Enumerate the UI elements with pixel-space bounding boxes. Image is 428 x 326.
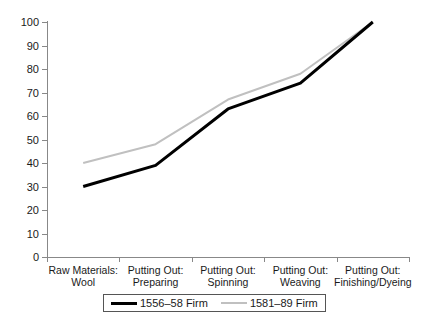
- legend-swatch-icon-series-1: [221, 302, 247, 304]
- x-axis-label-0: Raw Materials:Wool: [43, 264, 123, 288]
- y-tick-mark: [42, 187, 47, 188]
- chart-legend: 1556–58 Firm 1581–89 Firm: [103, 294, 326, 312]
- x-axis-label-line1: Putting Out:: [345, 264, 400, 276]
- x-tick-mark: [192, 257, 193, 262]
- y-tick-mark: [42, 116, 47, 117]
- y-tick-label-80: 80: [27, 64, 39, 75]
- x-tick-mark: [264, 257, 265, 262]
- y-tick-label-40: 40: [27, 158, 39, 169]
- y-tick-label-50: 50: [27, 135, 39, 146]
- y-axis-line: [47, 21, 48, 258]
- x-tick-mark: [119, 257, 120, 262]
- x-axis-label-line2: Wool: [43, 276, 123, 288]
- x-axis-label-4: Putting Out:Finishing/Dyeing: [333, 264, 413, 288]
- y-tick-label-70: 70: [27, 88, 39, 99]
- y-tick-mark: [42, 163, 47, 164]
- series-line-0: [83, 22, 373, 187]
- y-tick-mark: [42, 46, 47, 47]
- legend-item-series-1: 1581–89 Firm: [221, 298, 318, 309]
- x-axis-label-line1: Putting Out:: [128, 264, 183, 276]
- x-axis-label-1: Putting Out:Preparing: [115, 264, 195, 288]
- y-tick-label-100: 100: [21, 17, 39, 28]
- y-tick-mark: [42, 93, 47, 94]
- y-tick-mark: [42, 22, 47, 23]
- x-axis-label-line2: Finishing/Dyeing: [333, 276, 413, 288]
- x-axis-label-line1: Putting Out:: [200, 264, 255, 276]
- y-tick-mark: [42, 140, 47, 141]
- x-axis-label-3: Putting Out:Weaving: [260, 264, 340, 288]
- x-axis-label-2: Putting Out:Spinning: [188, 264, 268, 288]
- y-tick-label-30: 30: [27, 182, 39, 193]
- y-tick-label-0: 0: [33, 252, 39, 263]
- x-tick-mark: [337, 257, 338, 262]
- y-tick-label-90: 90: [27, 41, 39, 52]
- x-axis-line: [47, 257, 410, 258]
- y-tick-label-20: 20: [27, 205, 39, 216]
- x-axis-label-line2: Spinning: [188, 276, 268, 288]
- legend-swatch-icon-series-0: [111, 302, 137, 305]
- y-tick-label-60: 60: [27, 111, 39, 122]
- x-axis-label-line2: Preparing: [115, 276, 195, 288]
- x-tick-mark: [47, 257, 48, 262]
- y-tick-mark: [42, 234, 47, 235]
- x-axis-label-line1: Raw Materials:: [48, 264, 117, 276]
- x-tick-mark: [409, 257, 410, 262]
- x-axis-label-line1: Putting Out:: [273, 264, 328, 276]
- line-chart: 1009080706050403020100 Raw Materials:Woo…: [0, 0, 428, 326]
- legend-label-series-1: 1581–89 Firm: [250, 298, 318, 309]
- legend-label-series-0: 1556–58 Firm: [140, 298, 208, 309]
- y-tick-label-10: 10: [27, 229, 39, 240]
- legend-item-series-0: 1556–58 Firm: [111, 298, 208, 309]
- y-tick-mark: [42, 69, 47, 70]
- series-line-1: [83, 22, 373, 163]
- y-tick-mark: [42, 210, 47, 211]
- x-axis-label-line2: Weaving: [260, 276, 340, 288]
